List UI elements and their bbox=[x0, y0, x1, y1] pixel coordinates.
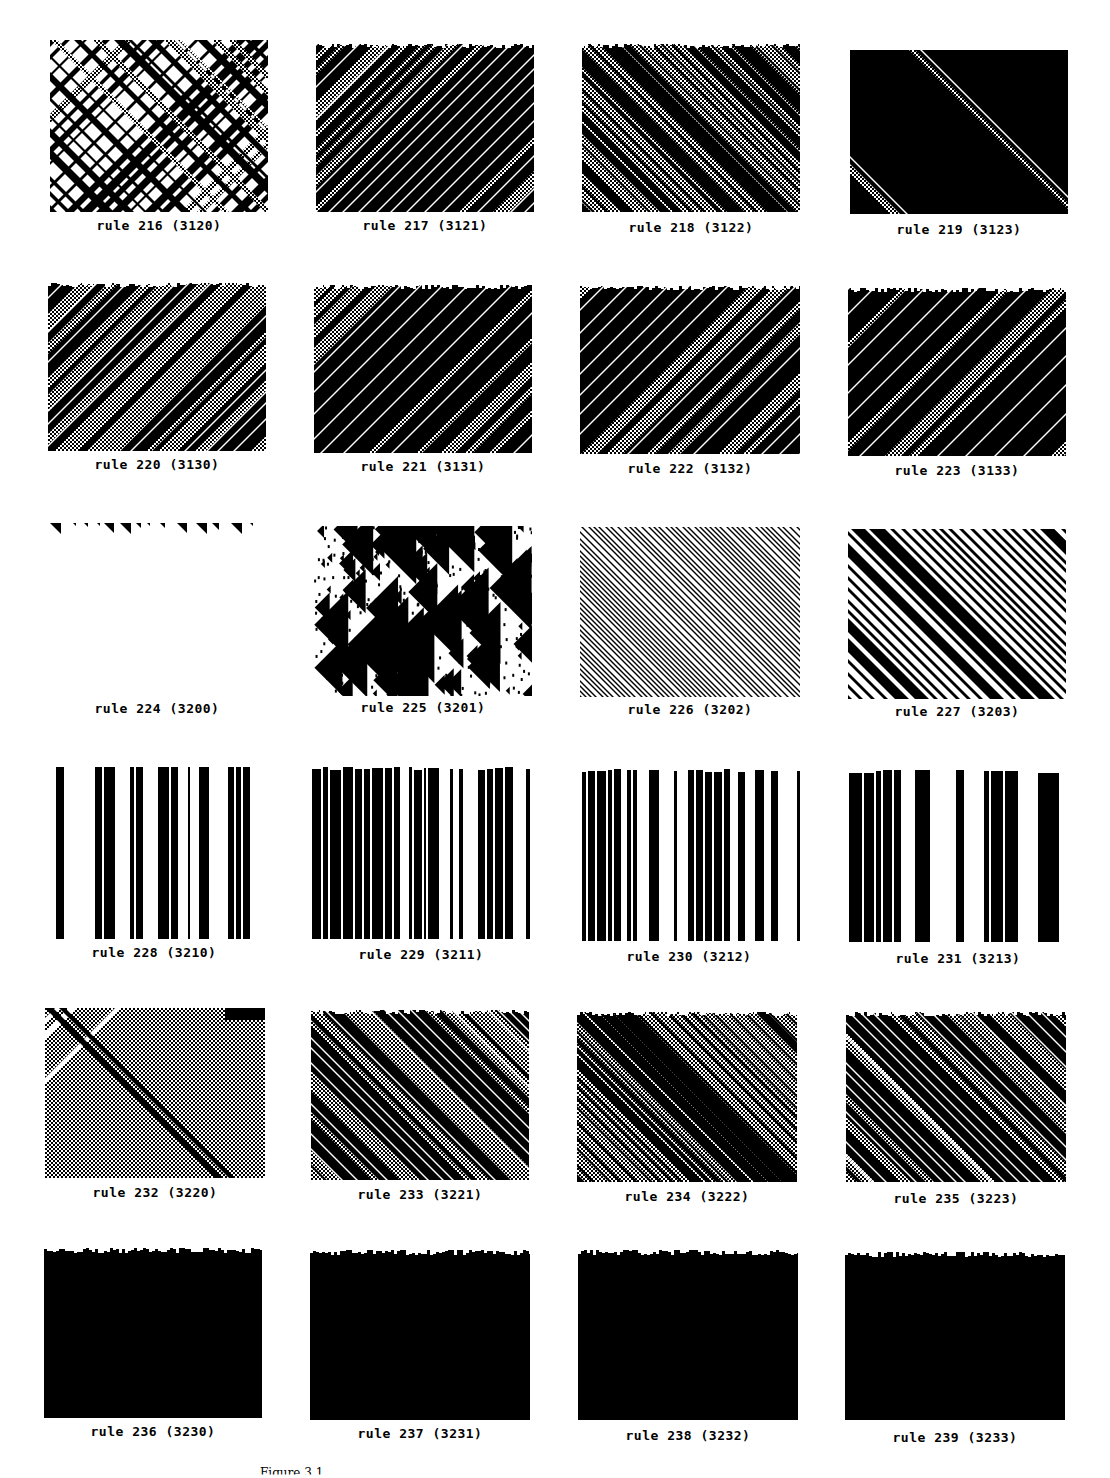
ca-evolution-image bbox=[578, 1250, 798, 1420]
ca-panel-label: rule 226 (3202) bbox=[570, 702, 810, 717]
ca-evolution-image bbox=[48, 283, 266, 451]
ca-panel-rule-228 bbox=[45, 767, 285, 939]
ca-panel-label: rule 224 (3200) bbox=[37, 701, 277, 716]
ca-panel-label: rule 229 (3211) bbox=[301, 947, 541, 962]
ca-evolution-image bbox=[580, 527, 800, 697]
ca-evolution-image bbox=[848, 288, 1066, 456]
ca-panel-label: rule 227 (3203) bbox=[837, 704, 1077, 719]
ca-panel-rule-222 bbox=[580, 286, 820, 454]
ca-panel-label: rule 222 (3132) bbox=[570, 461, 810, 476]
ca-evolution-image bbox=[48, 522, 266, 542]
ca-panel-rule-226 bbox=[580, 527, 820, 697]
ca-evolution-image bbox=[314, 285, 532, 453]
ca-evolution-image bbox=[45, 1008, 265, 1178]
ca-panel-rule-233 bbox=[311, 1010, 551, 1180]
ca-panel-rule-237 bbox=[310, 1250, 550, 1420]
ca-panel-label: rule 239 (3233) bbox=[835, 1430, 1075, 1445]
ca-panel-rule-216 bbox=[50, 40, 290, 212]
ca-panel-rule-229 bbox=[312, 767, 552, 939]
ca-panel-rule-221 bbox=[314, 285, 554, 453]
ca-panel-rule-236 bbox=[44, 1248, 284, 1418]
ca-panel-label: rule 217 (3121) bbox=[305, 218, 545, 233]
ca-evolution-image bbox=[310, 1250, 530, 1420]
ca-panel-label: rule 237 (3231) bbox=[300, 1426, 540, 1441]
ca-panel-label: rule 225 (3201) bbox=[303, 700, 543, 715]
ca-panel-rule-231 bbox=[849, 770, 1089, 942]
ca-evolution-image bbox=[850, 46, 1068, 214]
ca-evolution-image bbox=[50, 40, 268, 212]
ca-panel-rule-234 bbox=[577, 1012, 817, 1182]
ca-evolution-image bbox=[580, 286, 800, 454]
ca-evolution-image bbox=[577, 1012, 797, 1182]
ca-evolution-image bbox=[45, 767, 263, 939]
ca-panel-label: rule 238 (3232) bbox=[568, 1428, 808, 1443]
ca-panel-rule-235 bbox=[846, 1012, 1086, 1182]
ca-panel-label: rule 235 (3223) bbox=[836, 1191, 1076, 1206]
ca-panel-label: rule 216 (3120) bbox=[39, 218, 279, 233]
ca-panel-rule-227 bbox=[848, 529, 1088, 699]
ca-evolution-image bbox=[316, 44, 534, 212]
ca-evolution-image bbox=[848, 529, 1066, 699]
ca-evolution-image bbox=[845, 1252, 1065, 1420]
ca-evolution-image bbox=[846, 1012, 1066, 1182]
ca-panel-label: rule 220 (3130) bbox=[37, 457, 277, 472]
ca-panel-rule-220 bbox=[48, 283, 288, 451]
ca-panel-label: rule 221 (3131) bbox=[303, 459, 543, 474]
ca-panel-label: rule 234 (3222) bbox=[567, 1189, 807, 1204]
ca-panel-label: rule 232 (3220) bbox=[35, 1185, 275, 1200]
ca-evolution-image bbox=[849, 770, 1067, 942]
ca-panel-rule-225 bbox=[314, 526, 554, 696]
ca-panel-rule-238 bbox=[578, 1250, 818, 1420]
ca-panel-label: rule 233 (3221) bbox=[300, 1187, 540, 1202]
ca-evolution-image bbox=[44, 1248, 262, 1418]
ca-evolution-image bbox=[312, 767, 530, 939]
ca-panel-rule-230 bbox=[578, 769, 818, 941]
ca-panel-label: rule 228 (3210) bbox=[34, 945, 274, 960]
ca-panel-label: rule 223 (3133) bbox=[837, 463, 1077, 478]
ca-evolution-image bbox=[578, 769, 800, 941]
ca-panel-rule-218 bbox=[582, 44, 822, 212]
ca-panel-rule-217 bbox=[316, 44, 556, 212]
ca-panel-rule-223 bbox=[848, 288, 1088, 456]
ca-panel-label: rule 219 (3123) bbox=[839, 222, 1079, 237]
ca-panel-rule-232 bbox=[45, 1008, 285, 1178]
ca-panel-label: rule 231 (3213) bbox=[838, 951, 1078, 966]
ca-evolution-image bbox=[582, 44, 800, 212]
ca-panel-rule-239 bbox=[845, 1252, 1085, 1420]
ca-panel-rule-224 bbox=[48, 522, 288, 542]
ca-evolution-image bbox=[314, 526, 532, 696]
ca-panel-rule-219 bbox=[850, 46, 1090, 214]
ca-evolution-image bbox=[311, 1010, 529, 1180]
ca-panel-label: rule 218 (3122) bbox=[571, 220, 811, 235]
ca-panel-label: rule 236 (3230) bbox=[33, 1424, 273, 1439]
ca-panel-label: rule 230 (3212) bbox=[569, 949, 809, 964]
ca-figure-grid: rule 216 (3120) rule 217 (3121) rule 218… bbox=[0, 0, 1110, 1478]
